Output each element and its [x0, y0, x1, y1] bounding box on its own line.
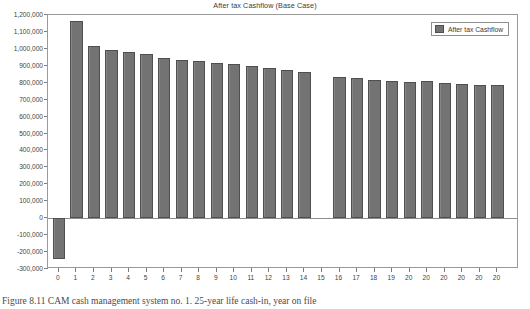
x-tick-label: 12	[265, 274, 272, 281]
x-tick-label: 20	[440, 274, 447, 281]
x-tick-label: 11	[247, 274, 254, 281]
x-tick-label: 19	[388, 274, 395, 281]
bar	[456, 84, 468, 218]
y-tick-label: -200,000	[0, 248, 43, 255]
y-tick-label: 1,000,000	[0, 44, 43, 51]
x-tick-mark	[111, 268, 112, 272]
bar	[404, 82, 416, 218]
x-tick-mark	[198, 268, 199, 272]
x-tick-mark	[303, 268, 304, 272]
x-tick-label: 14	[300, 274, 307, 281]
x-tick-mark	[496, 268, 497, 272]
x-tick-mark	[409, 268, 410, 272]
y-tick-label: -100,000	[0, 231, 43, 238]
x-tick-mark	[356, 268, 357, 272]
y-tick-label: 1,100,000	[0, 27, 43, 34]
bar	[281, 70, 293, 219]
x-tick-label: 9	[214, 274, 218, 281]
x-tick-mark	[268, 268, 269, 272]
x-tick-mark	[251, 268, 252, 272]
bar	[333, 77, 345, 218]
bar	[439, 83, 451, 218]
x-tick-mark	[58, 268, 59, 272]
bar	[491, 85, 503, 218]
x-tick-mark	[93, 268, 94, 272]
y-tick-label: 400,000	[0, 146, 43, 153]
x-tick-mark	[216, 268, 217, 272]
x-tick-label: 20	[405, 274, 412, 281]
chart-legend: After tax Cashflow	[431, 22, 509, 36]
x-tick-label: 1	[74, 274, 78, 281]
x-tick-mark	[321, 268, 322, 272]
x-tick-mark	[163, 268, 164, 272]
x-tick-mark	[128, 268, 129, 272]
x-tick-label: 2	[91, 274, 95, 281]
bar	[53, 218, 65, 259]
y-tick-label: 0	[0, 214, 43, 221]
bar	[70, 21, 82, 218]
x-tick-label: 20	[423, 274, 430, 281]
legend-swatch-after-tax-cashflow	[435, 25, 444, 33]
bar	[176, 60, 188, 218]
x-tick-mark	[181, 268, 182, 272]
x-tick-mark	[479, 268, 480, 272]
x-tick-label: 6	[161, 274, 165, 281]
y-tick-label: 200,000	[0, 180, 43, 187]
y-tick-label: 1,200,000	[0, 11, 43, 18]
plot-area	[47, 14, 518, 268]
bar	[246, 66, 258, 218]
x-tick-label: 5	[144, 274, 148, 281]
x-tick-label: 20	[458, 274, 465, 281]
x-tick-label: 18	[370, 274, 377, 281]
bar	[140, 54, 152, 219]
x-tick-mark	[286, 268, 287, 272]
x-tick-label: 4	[126, 274, 130, 281]
x-tick-mark	[146, 268, 147, 272]
bar	[211, 63, 223, 218]
x-tick-mark	[426, 268, 427, 272]
bar	[263, 68, 275, 218]
bar	[386, 81, 398, 218]
x-tick-label: 20	[475, 274, 482, 281]
y-tick-label: 900,000	[0, 61, 43, 68]
x-tick-label: 15	[317, 274, 324, 281]
y-tick-label: -300,000	[0, 265, 43, 272]
x-tick-mark	[374, 268, 375, 272]
bar	[368, 80, 380, 219]
x-tick-mark	[233, 268, 234, 272]
x-axis: 0123456789101112131415161718192020202020…	[47, 268, 518, 290]
chart-figure: After tax Cashflow (Base Case) 1,200,000…	[0, 0, 530, 309]
bar	[158, 58, 170, 218]
x-tick-label: 3	[109, 274, 113, 281]
zero-baseline	[48, 218, 517, 219]
chart-title: After tax Cashflow (Base Case)	[0, 1, 530, 10]
bar	[88, 46, 100, 218]
bar	[123, 52, 135, 218]
figure-caption: Figure 8.11 CAM cash management system n…	[2, 296, 530, 306]
x-tick-label: 7	[179, 274, 183, 281]
x-tick-mark	[461, 268, 462, 272]
x-tick-label: 8	[196, 274, 200, 281]
x-tick-label: 17	[352, 274, 359, 281]
x-tick-label: 10	[230, 274, 237, 281]
bar	[228, 64, 240, 218]
y-tick-label: 300,000	[0, 163, 43, 170]
x-tick-label: 13	[282, 274, 289, 281]
x-tick-mark	[339, 268, 340, 272]
y-tick-label: 600,000	[0, 112, 43, 119]
x-tick-label: 16	[335, 274, 342, 281]
bar	[193, 61, 205, 218]
y-tick-label: 500,000	[0, 129, 43, 136]
bar	[351, 78, 363, 218]
plot-inner	[48, 15, 517, 267]
y-tick-label: 700,000	[0, 95, 43, 102]
bar	[105, 50, 117, 218]
legend-label-after-tax-cashflow: After tax Cashflow	[448, 26, 503, 33]
x-tick-label: 20	[493, 274, 500, 281]
x-tick-mark	[391, 268, 392, 272]
y-tick-label: 800,000	[0, 78, 43, 85]
y-axis: 1,200,0001,100,0001,000,000900,000800,00…	[0, 14, 47, 268]
bar	[298, 72, 310, 219]
x-tick-mark	[75, 268, 76, 272]
bar	[474, 85, 486, 219]
